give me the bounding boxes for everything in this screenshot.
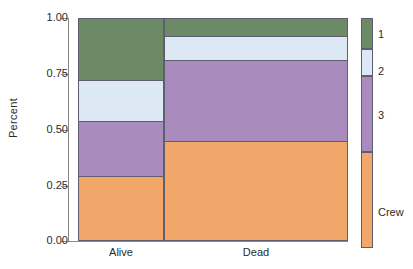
legend-swatch-1[interactable] <box>361 18 373 49</box>
y-tick-group-4: 0.25 <box>0 186 68 187</box>
legend-label-crew: Crew <box>378 206 404 218</box>
bar-alive-segment-3[interactable] <box>78 121 164 176</box>
bar-alive-segment-2[interactable] <box>78 80 164 121</box>
bar-dead-segment-1[interactable] <box>164 18 348 36</box>
bar-alive-segment-crew[interactable] <box>78 176 164 241</box>
bar-dead-segment-crew[interactable] <box>164 141 348 241</box>
x-tick-label-dead: Dead <box>243 246 269 258</box>
y-axis-title: Percent <box>7 58 19 178</box>
y-axis-line <box>68 18 69 242</box>
y-tick-group-2: 0.75 <box>0 74 68 75</box>
bar-dead-segment-2[interactable] <box>164 36 348 60</box>
bar-alive[interactable] <box>78 18 164 241</box>
legend-swatch-crew[interactable] <box>361 152 373 248</box>
y-tick-label: 0.25 <box>22 179 68 191</box>
y-tick-group-3: 0.50 <box>0 130 68 131</box>
legend-label-1: 1 <box>378 28 384 40</box>
legend-label-2: 2 <box>378 65 384 77</box>
x-axis-line <box>68 241 348 242</box>
y-tick-label: 0.50 <box>22 123 68 135</box>
legend-strip <box>361 18 373 248</box>
y-tick-label: 0.00 <box>22 234 68 246</box>
y-tick-group-1: 1.00 <box>0 18 68 19</box>
y-tick-label: 1.00 <box>22 11 68 23</box>
legend-label-3: 3 <box>378 109 384 121</box>
mosaic-chart: Percent 1.00 0.75 0.50 0.25 0.00 Alive <box>0 0 413 269</box>
y-tick-label: 0.75 <box>22 67 68 79</box>
bar-dead-segment-3[interactable] <box>164 60 348 141</box>
bar-alive-segment-1[interactable] <box>78 18 164 80</box>
legend-swatch-2[interactable] <box>361 49 373 76</box>
legend-swatch-3[interactable] <box>361 76 373 152</box>
x-tick-label-alive: Alive <box>109 246 133 258</box>
y-tick-group-5: 0.00 <box>0 241 68 242</box>
bar-dead[interactable] <box>164 18 348 241</box>
